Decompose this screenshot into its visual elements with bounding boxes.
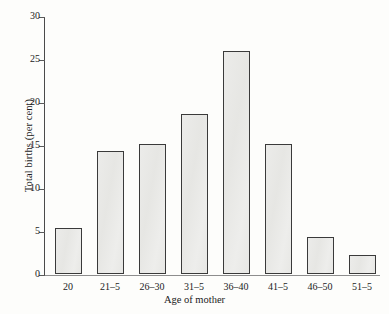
- bar-fill: [224, 52, 249, 273]
- bar-fill: [56, 229, 81, 273]
- y-axis-tick-label: 25: [30, 53, 40, 64]
- y-axis-tick-label: 20: [30, 96, 40, 107]
- bar: [97, 151, 124, 274]
- bar-fill: [308, 238, 333, 273]
- bar: [139, 144, 166, 274]
- plot-area: 051015202530 2021–526–3031–536–4041–546–…: [44, 17, 380, 275]
- y-axis-tick-label: 30: [30, 10, 40, 21]
- x-axis-title: Age of mother: [0, 294, 389, 305]
- bar-chart-figure: Total births (per cent) 051015202530 202…: [0, 0, 389, 314]
- y-axis-tick-label: 10: [30, 182, 40, 193]
- bar: [181, 114, 208, 274]
- bar-fill: [266, 145, 291, 273]
- bar-fill: [182, 115, 207, 273]
- bar-fill: [350, 256, 375, 273]
- y-axis-tick-label: 5: [35, 225, 40, 236]
- x-axis-line: [44, 275, 380, 276]
- bar: [349, 255, 376, 274]
- bar: [265, 144, 292, 274]
- bar: [55, 228, 82, 274]
- bar: [223, 51, 250, 274]
- x-axis-tick-label: 51–5: [332, 281, 389, 292]
- y-axis-tick-label: 0: [35, 268, 40, 279]
- bar-fill: [98, 152, 123, 273]
- bar: [307, 237, 334, 274]
- y-axis-tick-label: 15: [30, 139, 40, 150]
- bar-fill: [140, 145, 165, 273]
